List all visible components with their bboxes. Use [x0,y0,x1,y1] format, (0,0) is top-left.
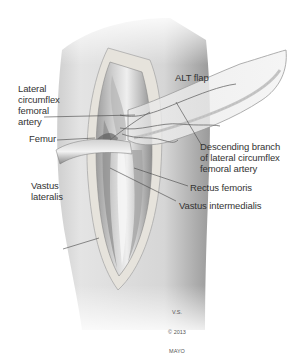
label-alt-flap: ALT flap [175,72,209,83]
label-vastus-lateralis: Vastus lateralis [31,180,63,202]
label-vastus-intermedialis: Vastus intermedialis [179,200,261,211]
label-descending-branch: Descending branch of lateral circumflex … [200,141,280,174]
credit-org: MAYO [160,348,194,355]
label-lateral-circumflex-femoral-artery: Lateral circumflex femoral artery [18,83,60,127]
credit-initials: V.S. [160,309,194,316]
label-rectus-femoris: Rectus femoris [190,182,252,193]
label-femur: Femur [29,133,56,144]
credit-copyright: © 2013 [160,329,194,336]
illustration-credit: V.S. © 2013 MAYO [160,296,194,357]
